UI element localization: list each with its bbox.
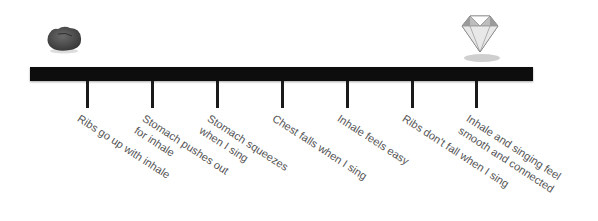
diamond-icon (458, 8, 502, 62)
milestone-tick (86, 81, 89, 108)
milestone-tick (151, 81, 154, 108)
milestone-tick (346, 81, 349, 108)
rock-icon (44, 24, 84, 54)
timeline-bar (30, 67, 533, 81)
milestone-tick (216, 81, 219, 108)
milestone-tick (475, 81, 478, 108)
milestone-tick (411, 81, 414, 108)
milestone-tick (281, 81, 284, 108)
